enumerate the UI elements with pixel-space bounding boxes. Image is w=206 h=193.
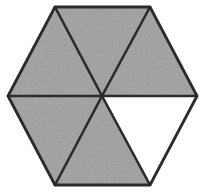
hexagon-figure xyxy=(0,0,206,193)
hexagon-diagram xyxy=(0,0,206,193)
